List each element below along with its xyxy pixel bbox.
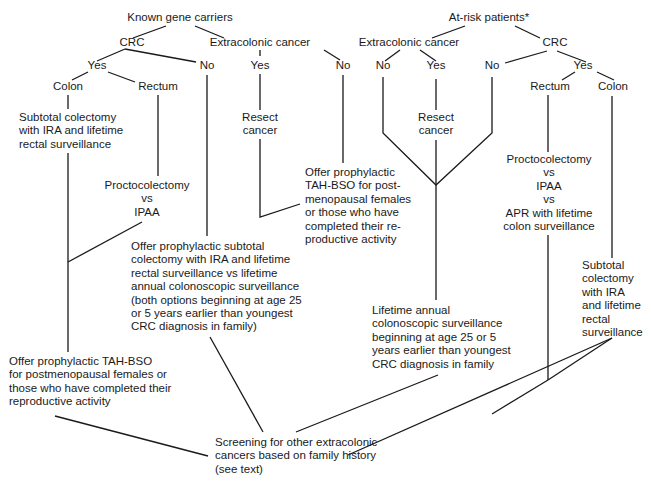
left-rectum: Rectum [138, 80, 178, 93]
right-lifetime-annual-surveillance: Lifetime annual colonoscopic surveillanc… [372, 304, 511, 371]
right-rectum: Rectum [530, 80, 570, 93]
left-crc-no: No [200, 59, 215, 72]
right-crc-node: CRC [543, 36, 568, 49]
right-extracolonic-node: Extracolonic cancer [359, 36, 459, 49]
right-proctocolectomy: Proctocolectomy vs IPAA vs APR with life… [503, 153, 594, 233]
right-crc-yes: Yes [574, 59, 593, 72]
left-colon: Colon [53, 80, 83, 93]
root-known-gene-carriers: Known gene carriers [127, 11, 232, 24]
right-resect-cancer: Resect cancer [418, 111, 454, 138]
right-colon: Colon [598, 80, 628, 93]
left-proctocolectomy: Proctocolectomy vs IPAA [104, 179, 189, 219]
left-resect-cancer: Resect cancer [242, 111, 278, 138]
left-subtotal-colectomy: Subtotal colectomy with IRA and lifetime… [19, 111, 123, 151]
hnpcc-management-flowchart: Known gene carriers At-risk patients* CR… [0, 0, 651, 486]
left-extra-no: No [336, 59, 351, 72]
left-offer-prophylactic-colectomy: Offer prophylactic subtotal colectomy wi… [131, 240, 302, 334]
left-extracolonic-node: Extracolonic cancer [210, 36, 310, 49]
right-extra-no: No [376, 59, 391, 72]
left-offer-tah-bso: Offer prophylactic TAH-BSO for post- men… [305, 166, 411, 246]
right-subtotal-colectomy: Subtotal colectomy with IRA and lifetime… [582, 259, 643, 339]
left-extra-yes: Yes [251, 59, 270, 72]
left-crc-node: CRC [120, 36, 145, 49]
left-offer-tah-bso-long: Offer prophylactic TAH-BSO for postmenop… [9, 355, 171, 409]
left-crc-yes: Yes [88, 59, 107, 72]
root-at-risk-patients: At-risk patients* [449, 11, 530, 24]
final-screening-extracolonic: Screening for other extracolonic cancers… [215, 436, 377, 476]
right-extra-yes: Yes [427, 59, 446, 72]
right-crc-no: No [485, 59, 500, 72]
